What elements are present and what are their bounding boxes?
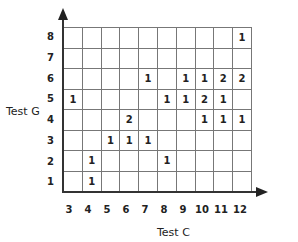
x-tick-label: 8: [154, 204, 174, 215]
grid-cell: [196, 27, 215, 48]
grid-cell: [233, 130, 252, 151]
grid-cell: 1: [102, 130, 121, 151]
grid-cell: [102, 48, 121, 69]
grid-cell: [139, 89, 158, 110]
grid-cell: [120, 150, 139, 171]
grid-cell: [177, 130, 196, 151]
x-axis-arrow-icon: [256, 187, 268, 197]
grid-cell: [120, 27, 139, 48]
grid-cell: [139, 27, 158, 48]
y-tick-label: 7: [40, 52, 54, 63]
grid-cell: [196, 48, 215, 69]
y-tick-label: 1: [40, 176, 54, 187]
grid-cell: [102, 27, 121, 48]
grid-cell: 2: [120, 109, 139, 130]
x-tick-label: 5: [97, 204, 117, 215]
grid-cell: 1: [158, 89, 177, 110]
grid-cell: [233, 150, 252, 171]
y-tick-label: 3: [40, 135, 54, 146]
grid-cell: [158, 109, 177, 130]
grid-cell: [64, 171, 83, 192]
grid-cell: [64, 109, 83, 130]
grid-cell: 2: [196, 89, 215, 110]
grid-cell: 1: [196, 109, 215, 130]
grid-cell: [120, 48, 139, 69]
grid-cell: [177, 150, 196, 171]
grid-cell: [177, 27, 196, 48]
x-tick-label: 4: [78, 204, 98, 215]
grid-cell: [214, 27, 233, 48]
y-tick-label: 8: [40, 31, 54, 42]
grid-cell: 2: [214, 68, 233, 89]
grid-cell: [177, 48, 196, 69]
x-tick-label: 3: [59, 204, 79, 215]
grid-cell: [233, 89, 252, 110]
grid-cell: [102, 171, 121, 192]
y-tick-label: 5: [40, 93, 54, 104]
grid-cell: [83, 109, 102, 130]
grid-cell: [120, 171, 139, 192]
grid-cell: 1: [233, 27, 252, 48]
x-tick-label: 9: [173, 204, 193, 215]
grid-cell: 1: [64, 89, 83, 110]
grid-cell: [214, 48, 233, 69]
grid-cell: 1: [158, 150, 177, 171]
x-tick-label: 10: [192, 204, 212, 215]
grid-cell: [83, 130, 102, 151]
grid-cell: [120, 89, 139, 110]
y-tick-label: 4: [40, 114, 54, 125]
grid-cell: 1: [233, 109, 252, 130]
grid-cell: [83, 48, 102, 69]
grid-cell: 1: [83, 150, 102, 171]
grid-cell: [64, 48, 83, 69]
x-axis-label: Test C: [157, 226, 190, 239]
grid-cell: [233, 171, 252, 192]
y-tick-label: 6: [40, 73, 54, 84]
grid-cell: [64, 150, 83, 171]
grid-cell: [214, 130, 233, 151]
x-tick-label: 6: [116, 204, 136, 215]
y-axis-arrow-icon: [58, 8, 68, 20]
grid-cell: 1: [139, 130, 158, 151]
grid-cell: [83, 68, 102, 89]
grid-cell: [64, 68, 83, 89]
grid-cell: [196, 150, 215, 171]
grid-cell: [177, 171, 196, 192]
grid-cell: [158, 130, 177, 151]
grid-cell: [139, 171, 158, 192]
grid-cell: 1: [214, 89, 233, 110]
grid-cell: [233, 48, 252, 69]
grid-cell: [158, 48, 177, 69]
scatter-grid: 111122111212111111111: [62, 27, 252, 193]
grid-cell: [177, 109, 196, 130]
grid-cell: [158, 68, 177, 89]
grid-cell: [214, 171, 233, 192]
grid-cell: 1: [214, 109, 233, 130]
grid-cell: [102, 68, 121, 89]
x-tick-label: 12: [230, 204, 250, 215]
grid-cell: 1: [83, 171, 102, 192]
grid-cell: [139, 48, 158, 69]
grid-cell: [64, 130, 83, 151]
grid-cell: [158, 171, 177, 192]
grid-cell: [139, 109, 158, 130]
grid-cell: [83, 89, 102, 110]
x-tick-label: 11: [211, 204, 231, 215]
grid-cell: [196, 171, 215, 192]
y-tick-label: 2: [40, 156, 54, 167]
x-tick-label: 7: [135, 204, 155, 215]
grid-cell: [102, 89, 121, 110]
grid-cell: [196, 130, 215, 151]
grid-cell: 1: [139, 68, 158, 89]
grid-cell: [158, 27, 177, 48]
grid-cell: 1: [196, 68, 215, 89]
grid-cell: [139, 150, 158, 171]
y-axis-label: Test G: [6, 105, 40, 118]
grid-cell: [102, 109, 121, 130]
grid-cell: 1: [177, 89, 196, 110]
grid-cell: 2: [233, 68, 252, 89]
grid-cell: [214, 150, 233, 171]
grid-cell: 1: [120, 130, 139, 151]
grid-cell: [102, 150, 121, 171]
grid-cell: [120, 68, 139, 89]
